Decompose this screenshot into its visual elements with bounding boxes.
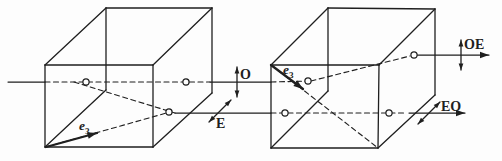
oe-polarization-arrow-label: OE	[464, 37, 484, 52]
o-polarization-arrow-head-backward	[235, 67, 240, 74]
optic-axis-left-crystal-label: e3	[79, 118, 90, 136]
eo-polarization-arrow-label: EO	[441, 99, 461, 114]
ray-marker-5	[411, 52, 417, 58]
oe-polarization-arrow-head-forward	[459, 64, 464, 71]
ray-marker-7	[386, 110, 392, 116]
oe-polarization-arrow-head-backward	[459, 40, 464, 47]
ray-marker-1	[83, 79, 89, 85]
oe-exit-ray-arrowhead	[480, 52, 489, 59]
right-crystal-bottom-back-left-diagonal-edge	[271, 91, 328, 148]
e-ray-walkoff-in-left-crystal	[74, 82, 175, 113]
ray-marker-6	[282, 110, 288, 116]
left-crystal-top-left-diagonal-edge	[45, 8, 106, 65]
o-polarization-arrow-label: O	[240, 67, 251, 82]
ray-marker-4	[305, 78, 311, 84]
oe-ray-in-right-crystal-walkoff	[311, 56, 410, 81]
ray-marker-2	[183, 79, 189, 85]
double-refraction-figure: e3e3OEOEEO	[0, 0, 502, 161]
ray-marker-3	[166, 109, 172, 115]
right-crystal-top-left-diagonal-edge	[271, 8, 328, 65]
right-crystal-front-right-edge	[378, 65, 379, 148]
o-polarization-arrow-head-forward	[235, 91, 240, 98]
diagram-canvas: e3e3OEOEEO	[0, 0, 502, 161]
left-crystal-top-right-diagonal-edge	[153, 8, 212, 65]
right-crystal-top-back-edge	[328, 8, 435, 9]
right-crystal-bottom-right-diagonal-edge	[378, 95, 435, 148]
e-polarization-arrow-label: E	[216, 116, 225, 131]
left-crystal-bottom-right-diagonal-edge	[153, 93, 212, 147]
